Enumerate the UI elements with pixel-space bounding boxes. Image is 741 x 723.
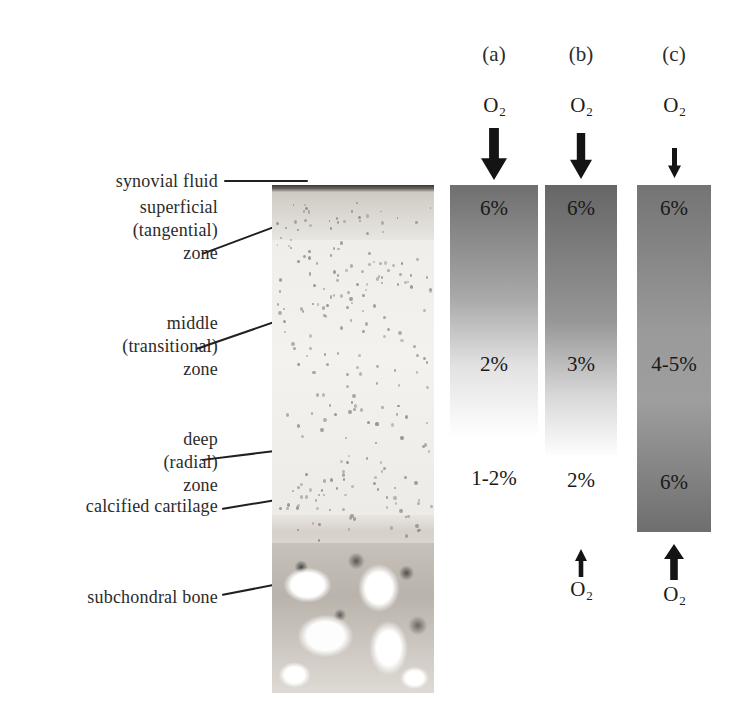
oxygen-value-a-top: 6%	[450, 196, 538, 221]
chondrocyte	[400, 436, 403, 440]
oxygen-value-b-bottom: 2%	[545, 468, 617, 493]
chondrocyte	[375, 422, 378, 426]
chondrocyte	[342, 473, 345, 477]
chondrocyte	[311, 412, 313, 415]
chondrocyte	[410, 285, 413, 289]
chondrocyte	[279, 278, 282, 281]
chondrocyte	[381, 276, 383, 279]
chondrocyte	[287, 503, 290, 507]
o2-arrow-bottom-c	[664, 544, 684, 584]
chondrocyte	[301, 435, 304, 439]
oxygen-value-b-middle: 3%	[545, 352, 617, 377]
chondrocyte	[366, 232, 369, 235]
o2-arrow-top-a	[481, 128, 507, 184]
chondrocyte	[366, 214, 369, 217]
chondrocyte	[384, 261, 387, 265]
oxygen-value-a-bottom: 1-2%	[450, 466, 538, 491]
chondrocyte	[351, 302, 353, 304]
chondrocyte	[297, 424, 300, 428]
arrow-down-icon	[570, 133, 592, 179]
chondrocyte	[286, 413, 290, 417]
chondrocyte	[309, 488, 312, 492]
chondrocyte	[358, 354, 361, 358]
chondrocyte	[323, 418, 327, 422]
chondrocyte	[300, 483, 303, 486]
chondrocyte	[391, 423, 394, 427]
chondrocyte	[337, 352, 340, 355]
chondrocyte	[399, 273, 402, 276]
chondrocyte	[309, 272, 312, 275]
chondrocyte	[330, 227, 332, 230]
chondrocyte	[336, 279, 339, 282]
chondrocyte	[352, 394, 356, 398]
label-synovial-fluid: synovial fluid	[58, 170, 218, 193]
o2-arrow-top-c	[668, 148, 681, 182]
chondrocyte	[386, 506, 389, 509]
oxygen-gradient-bar-b	[545, 185, 617, 455]
chondrocyte	[290, 247, 292, 249]
chondrocyte	[356, 202, 358, 205]
chondrocyte	[393, 496, 396, 500]
chondrocyte	[304, 219, 307, 222]
o2-label-top-b: O2	[545, 93, 617, 118]
chondrocyte	[362, 330, 365, 333]
chondrocyte	[286, 507, 289, 511]
histology-subchondral-bone	[272, 543, 434, 693]
chondrocyte	[330, 478, 333, 482]
chondrocyte	[316, 393, 319, 397]
chondrocyte	[351, 485, 354, 488]
chondrocyte	[320, 428, 324, 432]
chondrocyte	[291, 342, 295, 346]
arrow-up-icon	[575, 549, 587, 577]
chondrocyte	[398, 384, 400, 387]
leader-synovial-fluid	[224, 180, 308, 182]
chondrocyte	[405, 534, 408, 538]
chondrocyte	[382, 231, 384, 233]
o2-label-bottom-c: O2	[637, 582, 711, 607]
o2-arrow-top-b	[570, 133, 592, 183]
chondrocyte	[362, 310, 364, 312]
chondrocyte	[398, 331, 402, 335]
oxygen-gradient-bar-a	[450, 185, 538, 437]
arrow-down-icon	[481, 128, 507, 180]
chondrocyte	[415, 524, 418, 528]
chondrocyte	[387, 269, 389, 272]
chondrocyte	[346, 385, 349, 388]
chondrocyte	[386, 496, 388, 499]
chondrocyte	[430, 505, 433, 509]
chondrocyte	[343, 220, 346, 223]
label-calcified-cartilage: calcified cartilage	[28, 495, 218, 518]
chondrocyte	[390, 526, 393, 530]
chondrocyte	[366, 457, 369, 460]
figure-root: synovial fluid superficial (tangential) …	[0, 0, 741, 723]
chondrocyte	[345, 269, 347, 272]
label-superficial-zone: superficial (tangential) zone	[84, 196, 218, 265]
chondrocyte	[305, 495, 308, 499]
chondrocyte	[350, 264, 353, 268]
chondrocyte	[351, 401, 353, 404]
chondrocyte	[296, 506, 299, 510]
chondrocyte	[308, 256, 311, 260]
chondrocyte	[395, 502, 397, 504]
chondrocyte	[283, 320, 286, 323]
chondrocyte	[399, 509, 403, 513]
chondrocyte	[417, 529, 420, 532]
chondrocyte	[303, 210, 305, 213]
chondrocyte	[381, 406, 383, 409]
chondrocyte	[318, 539, 321, 542]
chondrocyte	[297, 486, 300, 489]
chondrocyte	[368, 252, 370, 255]
chondrocyte	[429, 288, 432, 291]
chondrocyte	[416, 258, 419, 261]
chondrocyte	[316, 507, 319, 511]
o2-label-top-a: O2	[450, 93, 538, 118]
chondrocyte	[297, 229, 299, 231]
chondrocyte	[322, 393, 325, 397]
label-subchondral-bone: subchondral bone	[28, 586, 218, 609]
label-deep-zone: deep (radial) zone	[84, 428, 218, 497]
arrow-up-icon	[664, 544, 684, 580]
chondrocyte	[349, 297, 352, 301]
panel-title-c: (c)	[637, 42, 711, 67]
panel-title-b: (b)	[545, 42, 617, 67]
chondrocyte	[324, 353, 326, 356]
